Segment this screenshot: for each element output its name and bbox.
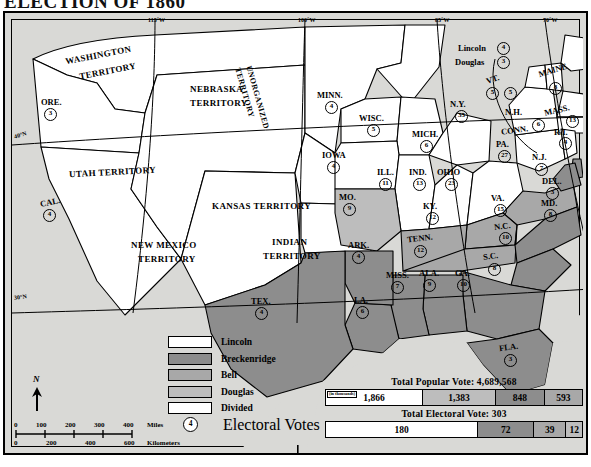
popular-vote-value-lincoln: 1,866 bbox=[363, 393, 384, 403]
vote-summary: Total Popular Vote: 4,689,568 (in thousa… bbox=[325, 377, 583, 441]
electoral-vote-value-bell: 39 bbox=[545, 425, 555, 435]
legend-swatch-divided bbox=[168, 402, 212, 414]
ev-miss: 7 bbox=[391, 281, 404, 294]
state-label-ky: KY. bbox=[423, 202, 437, 211]
graticule-label-100w: 100°W bbox=[298, 17, 315, 23]
ev-nc: 10 bbox=[499, 232, 512, 245]
scale-bar: 0 100 200 300 400 Miles 0 200 400 bbox=[14, 421, 154, 448]
ev-iowa: 4 bbox=[327, 161, 340, 174]
ev-ark: 4 bbox=[352, 251, 365, 264]
state-label-ill: ILL. bbox=[377, 168, 394, 177]
popular-vote-value-bell: 593 bbox=[556, 393, 570, 403]
popular-vote-seg-douglas: 1,383 bbox=[422, 390, 495, 405]
popular-vote-title: Total Popular Vote: 4,689,568 bbox=[325, 377, 583, 387]
graticule-label-70w: 70°W bbox=[543, 17, 557, 23]
ev-tenn: 12 bbox=[414, 245, 427, 258]
ev-cal: 4 bbox=[43, 209, 56, 222]
popular-vote-bar: (in thousands) 1,866 1,383 848 593 bbox=[325, 389, 583, 406]
state-label-md: MD. bbox=[541, 199, 557, 208]
ev-ill: 11 bbox=[379, 178, 392, 191]
legend-ev-circle: 4 bbox=[183, 417, 198, 432]
ev-mich: 6 bbox=[420, 140, 433, 153]
state-label-tex: TEX. bbox=[251, 297, 271, 306]
state-label-ga: GA. bbox=[455, 269, 470, 278]
nj-split-leader-line bbox=[445, 49, 555, 167]
popular-vote-seg-lincoln: (in thousands) 1,866 bbox=[326, 390, 422, 405]
state-label-iowa: IOWA bbox=[322, 151, 346, 160]
ev-ind: 13 bbox=[413, 178, 426, 191]
scale-km-tick-200: 200 bbox=[46, 439, 57, 447]
electoral-vote-bar: 180 72 39 12 bbox=[325, 421, 583, 438]
state-label-mich: MICH. bbox=[412, 130, 438, 139]
electoral-vote-seg-breckenridge: 72 bbox=[477, 422, 533, 437]
compass-north-label: N bbox=[33, 374, 40, 384]
state-label-nc: N.C. bbox=[494, 221, 511, 231]
territory-label-indian-2: TERRITORY bbox=[263, 252, 321, 261]
legend-label-breckenridge: Breckenridge bbox=[221, 354, 276, 364]
scale-miles-tick-300: 300 bbox=[94, 421, 105, 429]
page-title: ELECTION OF 1860 bbox=[4, 0, 186, 11]
state-label-ala: ALA. bbox=[419, 269, 439, 278]
legend-row-douglas: Douglas bbox=[168, 384, 343, 401]
legend-label-lincoln: Lincoln bbox=[221, 337, 252, 347]
state-label-sc: S.C. bbox=[482, 251, 498, 262]
ev-mo: 9 bbox=[343, 203, 356, 216]
state-label-fla: FLA. bbox=[499, 342, 519, 353]
legend-label-bell: Bell bbox=[221, 370, 237, 380]
state-label-ark: ARK. bbox=[348, 241, 369, 250]
electoral-vote-value-breckenridge: 72 bbox=[501, 425, 511, 435]
ev-ri: 4 bbox=[559, 137, 572, 150]
electoral-vote-seg-douglas: 12 bbox=[565, 422, 582, 437]
legend-swatch-douglas bbox=[168, 386, 212, 398]
popular-vote-unit-note: (in thousands) bbox=[327, 391, 357, 398]
popular-vote-value-douglas: 1,383 bbox=[448, 393, 469, 403]
state-label-ore: ORE. bbox=[41, 98, 62, 107]
legend-label-douglas: Douglas bbox=[221, 387, 254, 397]
electoral-vote-value-lincoln: 180 bbox=[394, 425, 408, 435]
state-label-ohio: OHIO bbox=[437, 168, 460, 177]
legend-swatch-breckenridge bbox=[168, 353, 212, 365]
scale-miles-tick-100: 100 bbox=[36, 421, 47, 429]
scale-miles-tick-0: 0 bbox=[14, 421, 18, 429]
scale-miles-tick-400: 400 bbox=[123, 421, 134, 429]
north-arrow-icon bbox=[30, 385, 50, 411]
electoral-vote-seg-bell: 39 bbox=[533, 422, 565, 437]
scale-bar-graphic bbox=[14, 430, 154, 437]
ev-md: 8 bbox=[544, 209, 557, 222]
ev-ga: 10 bbox=[457, 279, 470, 292]
state-label-minn: MINN. bbox=[317, 91, 343, 100]
legend-row-divided: Divided bbox=[168, 400, 343, 417]
ev-sc: 8 bbox=[488, 263, 501, 276]
scale-km-tick-400: 400 bbox=[85, 439, 96, 447]
scale-miles-tick-200: 200 bbox=[65, 421, 76, 429]
state-label-la: LA. bbox=[354, 296, 368, 305]
territory-label-nebraska-1: NEBRASKA bbox=[190, 85, 243, 94]
popular-vote-value-breckenridge: 848 bbox=[513, 393, 527, 403]
state-label-wisc: WISC. bbox=[359, 114, 384, 123]
electoral-vote-value-douglas: 12 bbox=[569, 425, 579, 435]
state-label-ind: IND. bbox=[409, 168, 427, 177]
election-map-page: ELECTION OF 1860 bbox=[0, 0, 591, 467]
map-title-strip: ELECTION OF 1860 bbox=[0, 0, 591, 11]
popular-vote-seg-bell: 593 bbox=[544, 390, 582, 405]
scale-km-tick-0: 0 bbox=[14, 439, 18, 447]
popular-vote-seg-breckenridge: 848 bbox=[495, 390, 544, 405]
scale-miles-unit: Miles bbox=[147, 421, 163, 429]
legend-swatch-bell bbox=[168, 369, 212, 381]
state-label-miss: MISS. bbox=[386, 271, 409, 280]
ev-wisc: 5 bbox=[367, 124, 380, 137]
legend-swatch-lincoln bbox=[168, 336, 212, 348]
ev-mass: 13 bbox=[566, 115, 579, 128]
graticule-label-85w: 85°W bbox=[435, 17, 449, 23]
ev-ky: 12 bbox=[426, 212, 439, 225]
ev-la: 6 bbox=[356, 306, 369, 319]
legend-row-breckenridge: Breckenridge bbox=[168, 351, 343, 368]
territory-label-newmexico-2: TERRITORY bbox=[138, 255, 196, 264]
scale-miles-ticks: 0 100 200 300 400 Miles bbox=[14, 421, 154, 430]
scale-km-unit: Kilometers bbox=[147, 439, 180, 447]
legend-row-lincoln: Lincoln bbox=[168, 334, 343, 351]
state-label-ri: R.I. bbox=[554, 128, 568, 137]
territory-label-kansas: KANSAS TERRITORY bbox=[212, 202, 311, 211]
territory-label-newmexico-1: NEW MEXICO bbox=[131, 241, 197, 250]
legend-row-bell: Bell bbox=[168, 367, 343, 384]
